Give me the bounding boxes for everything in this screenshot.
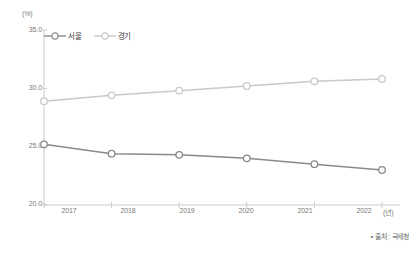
data-point-marker bbox=[244, 83, 251, 90]
line-chart: (%) 35.0 30.0 25.0 20.0 2017 2018 2019 2… bbox=[0, 0, 419, 255]
data-point-marker bbox=[108, 92, 115, 99]
data-point-marker bbox=[176, 87, 183, 94]
data-point-marker bbox=[176, 152, 183, 159]
chart-legend: 서울 경기 bbox=[44, 30, 131, 41]
data-point-marker bbox=[379, 76, 386, 83]
data-point-marker bbox=[311, 161, 318, 168]
legend-label-seoul: 서울 bbox=[68, 30, 82, 41]
series-line-seoul bbox=[44, 144, 382, 170]
legend-item-seoul[interactable]: 서울 bbox=[44, 30, 82, 41]
legend-label-gyeonggi: 경기 bbox=[118, 30, 132, 41]
data-point-marker bbox=[311, 78, 318, 85]
legend-marker-gyeonggi-icon bbox=[94, 31, 116, 41]
source-note: • 출처 : 국세청 bbox=[371, 231, 409, 241]
legend-marker-seoul-icon bbox=[44, 31, 66, 41]
legend-item-gyeonggi[interactable]: 경기 bbox=[94, 30, 132, 41]
data-point-marker bbox=[41, 141, 48, 148]
data-point-marker bbox=[108, 150, 115, 157]
data-point-marker bbox=[244, 155, 251, 162]
data-point-marker bbox=[41, 98, 48, 105]
series-line-gyeonggi bbox=[44, 79, 382, 101]
data-point-marker bbox=[379, 167, 386, 174]
